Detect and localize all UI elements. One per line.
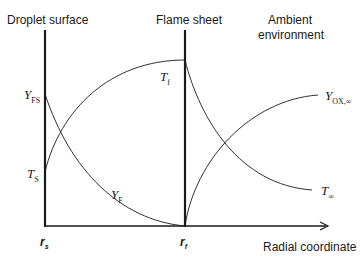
tf-label: Tf [160, 69, 170, 87]
droplet-surface-label: Droplet surface [7, 13, 88, 27]
ambient-label-2: environment [258, 28, 324, 42]
ts-label: TS [27, 166, 39, 184]
yox-label: YOX,∞ [325, 88, 352, 106]
temperature-curve-outer [185, 60, 312, 190]
flame-sheet-label: Flame sheet [156, 13, 222, 27]
yf-label: YF [111, 187, 123, 205]
rf-tick-label: rf [180, 235, 187, 250]
rs-tick-label: rs [40, 235, 49, 250]
oxidizer-fraction-curve [185, 95, 318, 226]
x-axis-label: Radial coordinate [263, 240, 356, 254]
fuel-fraction-curve [45, 94, 185, 226]
tinf-label: T∞ [321, 183, 334, 201]
yfs-label: YFS [24, 87, 40, 105]
ambient-label-1: Ambient [268, 13, 312, 27]
